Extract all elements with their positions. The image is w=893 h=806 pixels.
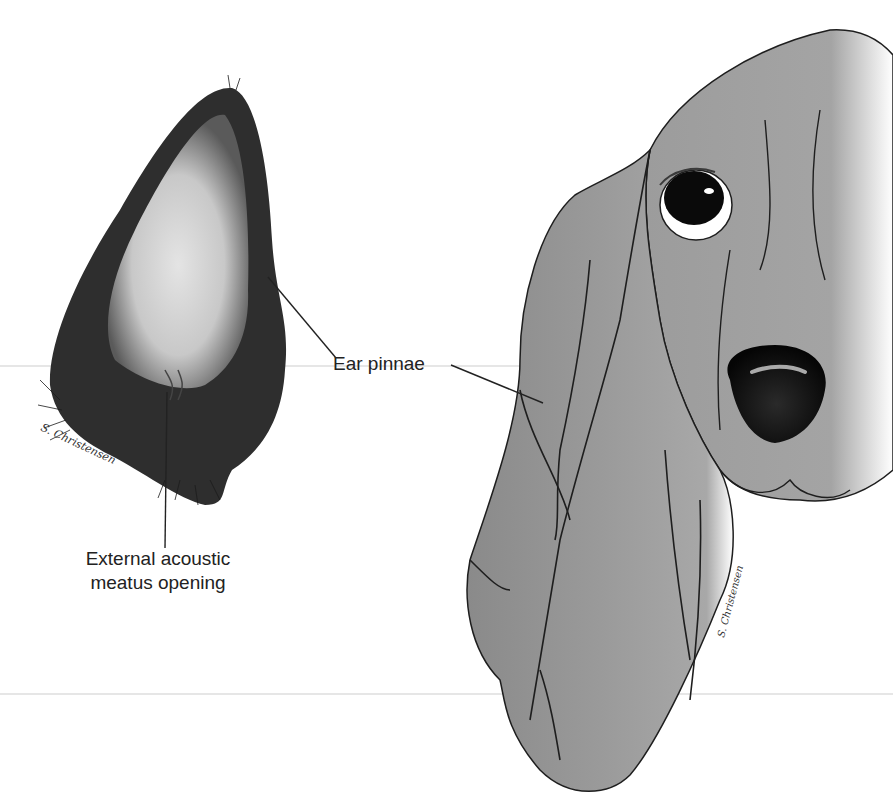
external-acoustic-meatus-label: External acoustic meatus opening	[70, 547, 246, 595]
anatomy-figure: S. Christensen	[0, 0, 893, 806]
ear-pinnae-label: Ear pinnae	[333, 352, 425, 376]
dog-eye	[660, 169, 732, 240]
meatus-label-line1: External acoustic	[70, 547, 246, 571]
ear-inner-surface	[108, 115, 248, 388]
basset-hound-illustration: S. Christensen	[467, 30, 893, 791]
illustration: S. Christensen	[0, 0, 893, 806]
meatus-label-line2: meatus opening	[70, 571, 246, 595]
ear-pinna-illustration: S. Christensen	[38, 75, 286, 505]
